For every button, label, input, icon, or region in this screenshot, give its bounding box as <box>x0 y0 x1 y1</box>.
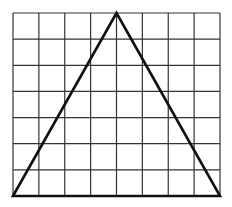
diagram-canvas <box>0 0 232 207</box>
grid <box>13 13 220 196</box>
